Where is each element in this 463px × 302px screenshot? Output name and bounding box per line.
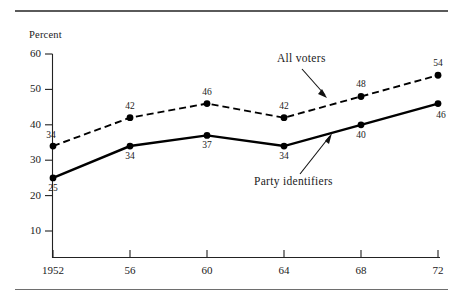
data-point-value-label: 42 bbox=[125, 101, 135, 111]
party-identifiers-arrow-line bbox=[300, 136, 330, 174]
data-point-marker bbox=[204, 100, 211, 107]
x-axis-tick-label: 1952 bbox=[42, 264, 64, 276]
data-point-marker bbox=[127, 143, 134, 150]
data-point-value-label: 46 bbox=[202, 87, 212, 97]
y-axis-tick-label: 20 bbox=[19, 189, 41, 201]
chart-figure: Percent 102030405060 19525660646872 3442… bbox=[0, 0, 463, 302]
data-point-value-label: 25 bbox=[48, 183, 58, 193]
data-point-value-label: 48 bbox=[356, 79, 366, 89]
x-axis-tick-label: 64 bbox=[279, 264, 290, 276]
x-axis-ticks bbox=[53, 250, 438, 258]
x-axis-tick-label: 72 bbox=[433, 264, 444, 276]
data-point-value-label: 42 bbox=[279, 101, 289, 111]
x-axis-tick-label: 56 bbox=[125, 264, 136, 276]
data-point-value-label: 54 bbox=[433, 58, 443, 68]
data-point-value-label: 34 bbox=[125, 151, 135, 161]
data-point-value-label: 40 bbox=[356, 130, 366, 140]
data-point-marker bbox=[281, 114, 288, 121]
data-point-value-label: 46 bbox=[436, 110, 446, 120]
all-voters-arrow-head bbox=[318, 89, 327, 98]
x-axis-tick-label: 68 bbox=[356, 264, 367, 276]
annotation-arrows bbox=[300, 69, 332, 174]
y-axis-tick-label: 10 bbox=[19, 224, 41, 236]
y-axis-tick-label: 60 bbox=[19, 47, 41, 59]
series-line-1 bbox=[53, 75, 438, 146]
data-point-marker bbox=[358, 121, 365, 128]
data-point-marker bbox=[50, 143, 57, 150]
series-line-2 bbox=[53, 104, 438, 178]
data-point-value-label: 34 bbox=[279, 151, 289, 161]
y-axis-tick-label: 50 bbox=[19, 82, 41, 94]
y-axis-tick-label: 30 bbox=[19, 153, 41, 165]
data-point-marker bbox=[435, 100, 442, 107]
data-point-marker bbox=[435, 72, 442, 79]
data-point-marker bbox=[50, 175, 57, 182]
data-point-marker bbox=[127, 114, 134, 121]
data-point-marker bbox=[358, 93, 365, 100]
x-axis-tick-label: 60 bbox=[202, 264, 213, 276]
annotation-all-voters: All voters bbox=[277, 52, 326, 64]
y-axis-ticks bbox=[45, 54, 53, 231]
data-point-marker bbox=[281, 143, 288, 150]
y-axis-tick-label: 40 bbox=[19, 118, 41, 130]
axes bbox=[53, 54, 441, 258]
data-point-value-label: 34 bbox=[46, 130, 56, 140]
plot-area bbox=[0, 0, 463, 302]
data-series-group bbox=[50, 72, 442, 181]
annotation-party-identifiers: Party identifiers bbox=[254, 175, 333, 187]
data-point-marker bbox=[204, 132, 211, 139]
data-point-value-label: 37 bbox=[202, 140, 212, 150]
